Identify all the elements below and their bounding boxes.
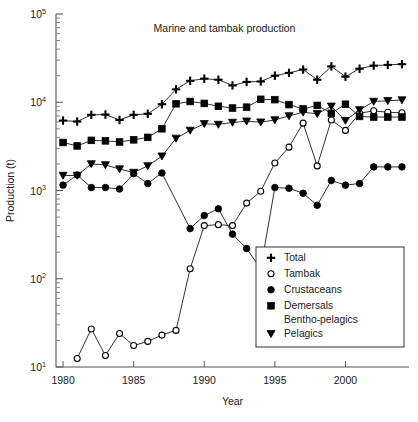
marker-square-filled — [201, 100, 208, 107]
marker-circle-open — [314, 163, 320, 169]
legend-box — [256, 247, 404, 347]
marker-circle-filled — [328, 177, 335, 184]
y-axis-title: Production (t) — [4, 159, 16, 222]
marker-circle-filled — [243, 245, 250, 252]
y-tick-exponent: 4 — [42, 95, 46, 104]
marker-circle-filled — [102, 184, 109, 191]
marker-square-filled — [314, 102, 321, 109]
marker-circle-filled — [286, 185, 293, 192]
x-tick-label: 2000 — [334, 374, 358, 386]
marker-triangle-down — [313, 111, 321, 118]
marker-square-filled — [187, 98, 194, 105]
marker-square-filled — [144, 134, 151, 141]
y-tick-exponent: 5 — [42, 7, 46, 16]
marker-triangle-down — [101, 162, 109, 169]
marker-square-filled — [102, 138, 109, 145]
legend-label: Tambak — [284, 268, 321, 279]
marker-circle-filled — [144, 180, 151, 187]
marker-circle-open — [201, 223, 207, 229]
marker-circle-open — [286, 144, 292, 150]
marker-circle-open — [88, 326, 94, 332]
marker-circle-open — [300, 120, 306, 126]
marker-circle-open — [173, 327, 179, 333]
marker-circle-open — [74, 355, 80, 361]
marker-circle-filled — [370, 164, 377, 171]
marker-circle-filled — [272, 184, 279, 191]
marker-square-filled — [257, 96, 264, 103]
marker-square-filled — [342, 101, 349, 108]
marker-circle-filled — [356, 180, 363, 187]
marker-circle-open — [215, 222, 221, 228]
chart-legend: TotalTambakCrustaceansDemersalsBentho-pe… — [256, 247, 404, 347]
series-line — [63, 64, 402, 121]
marker-circle-filled — [187, 225, 194, 232]
marker-square-filled — [88, 137, 95, 144]
marker-circle-open — [230, 223, 236, 229]
marker-circle-open — [244, 200, 250, 206]
marker-circle-filled — [116, 186, 123, 193]
marker-circle-open — [159, 332, 165, 338]
chart-figure: 10510410310210119801985199019952000Marin… — [0, 0, 418, 422]
y-tick-exponent: 1 — [42, 360, 46, 369]
marker-circle-open — [328, 117, 334, 123]
x-tick-label: 1980 — [51, 374, 75, 386]
y-tick-label: 101 — [30, 360, 46, 374]
marker-circle-filled — [300, 190, 307, 197]
marker-square-filled — [399, 114, 406, 121]
marker-square-filled — [130, 137, 137, 144]
marker-circle-open — [187, 266, 193, 272]
marker-circle-open — [342, 127, 348, 133]
legend-label: Bentho-pelagics — [284, 314, 358, 325]
marker-circle-open — [272, 160, 278, 166]
marker-circle-open — [131, 343, 137, 349]
marker-triangle-down — [257, 119, 265, 126]
marker-square-filled — [229, 105, 236, 112]
marker-circle-filled — [159, 170, 166, 177]
marker-square-filled — [159, 126, 166, 133]
x-tick-label: 1990 — [193, 374, 217, 386]
marker-circle-filled — [229, 231, 236, 238]
legend-label: Total — [284, 252, 306, 263]
marker-triangle-down — [158, 153, 166, 160]
y-tick-label: 103 — [30, 183, 46, 197]
legend-label: Pelagics — [284, 328, 323, 339]
marker-triangle-down — [144, 163, 152, 170]
x-axis-ticks: 19801985199019952000 — [51, 361, 357, 386]
marker-circle-filled — [201, 212, 208, 219]
marker-square-filled — [60, 139, 67, 146]
marker-triangle-down — [172, 135, 180, 142]
y-tick-exponent: 2 — [42, 271, 46, 280]
marker-circle-open — [371, 108, 377, 114]
marker-circle-filled — [268, 287, 275, 294]
marker-square-filled — [268, 303, 275, 310]
y-tick-label: 105 — [30, 7, 46, 21]
x-tick-label: 1985 — [122, 374, 146, 386]
marker-square-filled — [385, 114, 392, 121]
legend-label: Crustaceans — [284, 284, 342, 295]
marker-square-filled — [286, 101, 293, 108]
legend-label: Demersals — [284, 300, 333, 311]
marker-square-filled — [215, 103, 222, 110]
marker-circle-open — [117, 330, 123, 336]
y-tick-exponent: 3 — [42, 183, 46, 192]
marker-square-filled — [243, 104, 250, 111]
marker-square-filled — [173, 101, 180, 108]
marker-circle-filled — [385, 164, 392, 171]
y-tick-label: 102 — [30, 271, 46, 285]
marker-circle-open — [268, 271, 274, 277]
marker-square-filled — [272, 96, 279, 103]
marker-triangle-down — [285, 113, 293, 120]
x-tick-label: 1995 — [263, 374, 287, 386]
marker-circle-filled — [88, 184, 95, 191]
marker-square-filled — [328, 110, 335, 117]
marker-circle-open — [102, 352, 108, 358]
chart-title: Marine and tambak production — [154, 22, 296, 34]
marker-circle-filled — [60, 182, 67, 189]
marker-circle-filled — [399, 164, 406, 171]
series-total — [59, 60, 406, 126]
marker-circle-open — [145, 338, 151, 344]
marker-square-filled — [74, 143, 81, 150]
x-axis-title: Year — [222, 395, 244, 407]
marker-circle-filled — [314, 202, 321, 209]
y-axis-ticks: 105104103102101 — [30, 7, 63, 374]
